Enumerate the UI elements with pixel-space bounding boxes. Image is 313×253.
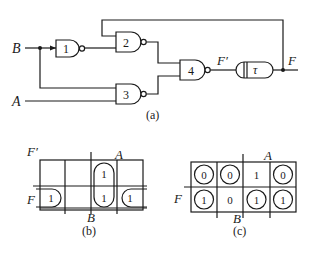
input-b-label: B	[12, 41, 21, 56]
nand-gate-4: 4	[180, 60, 210, 80]
svg-text:2: 2	[123, 36, 129, 50]
kmap-c-cell: 0	[227, 169, 233, 181]
kmap-c-f-label: F	[173, 191, 183, 206]
circuit-diagram: B 1 2 A 3 4	[11, 20, 298, 122]
kmap-b-cell: 1	[127, 192, 133, 204]
junction-dot	[281, 68, 285, 72]
svg-text:4: 4	[188, 64, 194, 78]
gate3-to-gate4-wire	[146, 76, 180, 94]
kmap-b-cell: 1	[101, 192, 107, 204]
delay-element: τ	[236, 62, 273, 78]
kmap-c-cell: 1	[280, 194, 286, 206]
kmap-c-cell: 0	[280, 169, 286, 181]
kmap-c-cell: 0	[227, 194, 233, 206]
kmap-b-cell: 1	[101, 168, 107, 180]
kmap-b-f-label: F	[26, 192, 36, 207]
kmap-c: A F B 0 0 1 0 1 0 1 1 (c)	[173, 148, 296, 238]
figure: B 1 2 A 3 4	[0, 0, 313, 253]
arrow-icon	[50, 46, 56, 51]
caption-b: (b)	[82, 224, 96, 238]
kmap-c-cell: 1	[201, 194, 207, 206]
kmap-b-cell: 1	[48, 192, 54, 204]
f-prime-label: F′	[216, 53, 228, 68]
caption-a: (a)	[146, 108, 159, 122]
nand-gate-2: 2	[116, 32, 146, 52]
svg-text:3: 3	[123, 88, 129, 102]
kmap-b: F′ A F B 1 1 1 1 (b)	[26, 144, 147, 238]
nand-gate-3: 3	[116, 84, 146, 104]
svg-text:1: 1	[63, 42, 69, 56]
gate2-to-gate4-wire	[146, 42, 180, 63]
tau-label: τ	[253, 63, 258, 77]
b-to-gate3-wire	[40, 48, 116, 88]
output-f-label: F	[287, 53, 297, 68]
input-a-label: A	[11, 94, 21, 109]
kmap-c-cell: 1	[254, 169, 260, 181]
kmap-c-cell: 0	[201, 169, 207, 181]
caption-c: (c)	[233, 224, 246, 238]
kmap-c-cell: 1	[254, 194, 260, 206]
nand-gate-1: 1	[56, 40, 85, 57]
kmap-c-a-label: A	[263, 148, 272, 163]
kmap-b-f-prime-label: F′	[26, 144, 38, 159]
